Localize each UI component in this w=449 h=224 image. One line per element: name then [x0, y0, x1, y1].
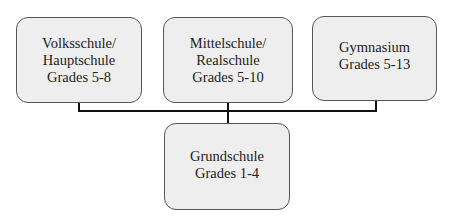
node-gymnasium: Gymnasium Grades 5-13: [312, 16, 437, 101]
node-line: Grades 5-10: [192, 69, 263, 86]
node-line: Grades 5-13: [339, 56, 410, 73]
node-line: Gymnasium: [339, 39, 410, 56]
node-volksschule: Volksschule/ Hauptschule Grades 5-8: [16, 17, 142, 103]
node-line: Grundschule: [190, 148, 264, 165]
node-line: Grades 5-8: [47, 69, 111, 86]
node-line: Grades 1-4: [195, 165, 259, 182]
node-line: Realschule: [196, 52, 260, 69]
node-mittelschule: Mittelschule/ Realschule Grades 5-10: [163, 17, 293, 103]
connector-stem-volksschule: [78, 102, 80, 112]
node-line: Mittelschule/: [190, 35, 267, 52]
node-grundschule: Grundschule Grades 1-4: [164, 123, 290, 210]
connector-stem-gymnasium: [375, 100, 377, 112]
node-line: Hauptschule: [43, 52, 115, 69]
connector-stem-mittelschule: [227, 102, 229, 124]
node-line: Volksschule/: [42, 35, 116, 52]
